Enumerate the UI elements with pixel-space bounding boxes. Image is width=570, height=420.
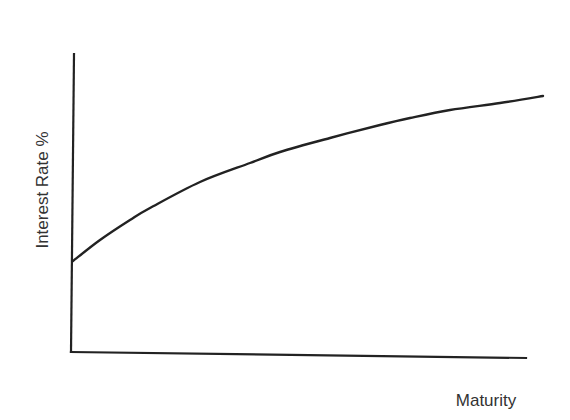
y-axis: [71, 54, 74, 352]
yield-curve-chart: Interest Rate % Maturity: [0, 0, 570, 420]
yield-curve-line: [73, 96, 543, 261]
x-axis: [71, 352, 526, 358]
x-axis-label: Maturity: [456, 391, 517, 410]
y-axis-label: Interest Rate %: [33, 131, 52, 248]
